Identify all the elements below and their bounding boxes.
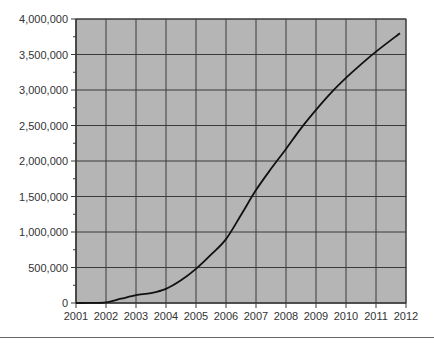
x-tick-label: 2005: [184, 310, 208, 322]
y-tick-label: 1,000,000: [19, 226, 68, 238]
x-tick-label: 2011: [364, 310, 388, 322]
y-tick-label: 2,500,000: [19, 120, 68, 132]
y-tick-label: 3,000,000: [19, 84, 68, 96]
x-tick-label: 2001: [64, 310, 88, 322]
y-tick-label: 1,500,000: [19, 191, 68, 203]
x-tick-label: 2004: [154, 310, 178, 322]
y-tick-label: 0: [62, 297, 68, 309]
x-tick-label: 2002: [94, 310, 118, 322]
line-chart: 0500,0001,000,0001,500,0002,000,0002,500…: [0, 0, 434, 343]
y-tick-label: 500,000: [28, 262, 68, 274]
x-tick-label: 2009: [304, 310, 328, 322]
divider-rule: [0, 337, 434, 338]
y-axis: 0500,0001,000,0001,500,0002,000,0002,500…: [19, 13, 76, 309]
x-tick-label: 2010: [334, 310, 358, 322]
x-tick-label: 2012: [394, 310, 418, 322]
y-tick-label: 3,500,000: [19, 49, 68, 61]
x-tick-label: 2008: [274, 310, 298, 322]
x-tick-label: 2006: [214, 310, 238, 322]
y-tick-label: 2,000,000: [19, 155, 68, 167]
x-tick-label: 2003: [124, 310, 148, 322]
x-tick-label: 2007: [244, 310, 268, 322]
y-tick-label: 4,000,000: [19, 13, 68, 25]
x-axis: 2001200220032004200520062007200820092010…: [64, 303, 418, 322]
chart-canvas: 0500,0001,000,0001,500,0002,000,0002,500…: [0, 0, 434, 343]
